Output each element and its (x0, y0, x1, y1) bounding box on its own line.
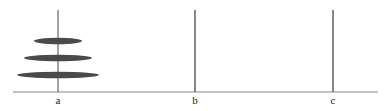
disk-large (17, 72, 99, 78)
disk-medium (24, 55, 92, 61)
peg-label-b: b (192, 94, 198, 106)
peg-label-a: a (56, 94, 61, 106)
disk-small (34, 38, 82, 44)
peg-label-c: c (331, 94, 336, 106)
